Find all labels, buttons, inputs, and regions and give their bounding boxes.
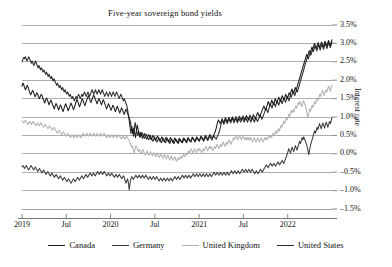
x-axis-tick-marks (22, 214, 288, 218)
legend-item-united-kingdom[interactable]: United Kingdom (182, 240, 260, 250)
legend-label: Germany (133, 240, 165, 250)
legend-label: United Kingdom (203, 240, 260, 250)
legend-swatch (277, 245, 294, 246)
y-tick-label: 2.5% (340, 56, 357, 65)
series-lines (22, 40, 332, 190)
y-tick-label: 3.5% (340, 20, 357, 29)
legend-item-united-states[interactable]: United States (277, 240, 344, 250)
y-tick-label: –1.0% (340, 185, 361, 194)
y-tick-label: 3.0% (340, 38, 357, 47)
legend-label: Canada (69, 240, 95, 250)
legend-item-canada[interactable]: Canada (48, 240, 95, 250)
x-tick-label: 2019 (2, 220, 42, 229)
legend-swatch (112, 245, 129, 246)
series-line-united-states (22, 42, 332, 144)
y-tick-label: –1.5% (340, 204, 361, 213)
y-tick-label: 2.0% (340, 75, 357, 84)
legend-swatch (48, 245, 65, 246)
y-axis-title: Interest rate (353, 88, 362, 126)
x-tick-label: Jul (223, 220, 263, 229)
y-tick-label: –0.5% (340, 167, 361, 176)
legend-item-germany[interactable]: Germany (112, 240, 165, 250)
y-tick-label: 0.5% (340, 130, 357, 139)
chart-legend: CanadaGermanyUnited KingdomUnited States (0, 240, 392, 250)
x-tick-label: Jul (46, 220, 86, 229)
x-tick-label: Jul (135, 220, 175, 229)
gridlines (22, 25, 337, 209)
x-tick-label: 2022 (268, 220, 308, 229)
x-tick-label: 2021 (179, 220, 219, 229)
x-tick-label: 2020 (91, 220, 131, 229)
legend-label: United States (298, 240, 344, 250)
y-tick-label: 0.0% (340, 148, 357, 157)
chart-container: Five-year sovereign bond yields 3.5%3.0%… (0, 0, 392, 267)
series-line-canada (22, 40, 332, 143)
legend-swatch (182, 245, 199, 246)
